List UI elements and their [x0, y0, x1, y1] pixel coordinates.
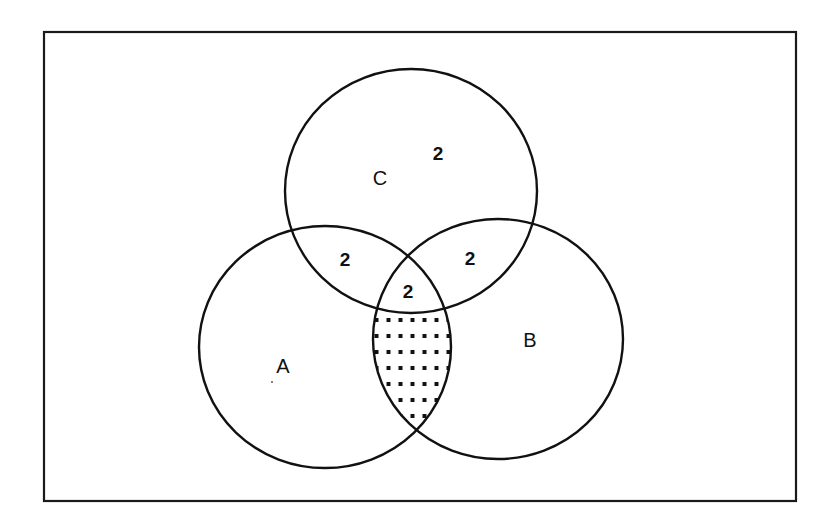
set-b-label: B — [523, 329, 536, 351]
count-a-and-c: 2 — [340, 249, 351, 270]
print-speck — [271, 381, 273, 383]
set-c-label: C — [373, 167, 387, 189]
set-a-label: A — [276, 355, 290, 377]
venn-diagram: A B C 2 2 2 2 — [0, 0, 838, 531]
count-c-only: 2 — [433, 143, 444, 164]
set-c-circle — [285, 69, 537, 313]
count-a-b-c: 2 — [403, 281, 414, 302]
count-b-and-c: 2 — [465, 248, 476, 269]
